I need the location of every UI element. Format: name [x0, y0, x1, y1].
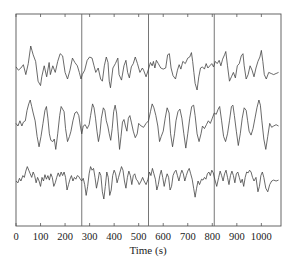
- traces: [16, 46, 279, 199]
- x-axis-ticks: [16, 14, 261, 226]
- x-tick-label: 200: [57, 231, 73, 242]
- x-tick-label: 400: [106, 231, 122, 242]
- x-tick-label: 900: [229, 231, 245, 242]
- time-series-chart: 01002003004005006007008009001000 Time (s…: [0, 0, 293, 269]
- x-tick-label: 100: [33, 231, 49, 242]
- x-tick-label: 1000: [251, 231, 272, 242]
- x-tick-label: 800: [204, 231, 220, 242]
- trace-middle-line: [16, 100, 279, 149]
- x-tick-label: 500: [131, 231, 147, 242]
- x-axis-tick-labels: 01002003004005006007008009001000: [13, 231, 271, 242]
- x-tick-label: 300: [82, 231, 98, 242]
- x-tick-label: 600: [155, 231, 171, 242]
- trace-bottom-line: [16, 167, 279, 199]
- x-axis-title: Time (s): [129, 244, 167, 257]
- trace-top-line: [16, 46, 279, 90]
- x-tick-label: 0: [13, 231, 18, 242]
- x-tick-label: 700: [180, 231, 196, 242]
